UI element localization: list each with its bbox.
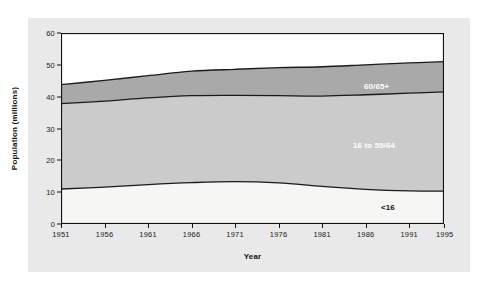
y-tick-mark	[57, 192, 61, 193]
x-tick-label: 1991	[400, 230, 418, 239]
chart-figure-panel: 0102030405060 19511956196119661971197619…	[28, 18, 470, 272]
y-tick-label: 0	[51, 220, 55, 229]
x-tick-mark	[105, 224, 106, 228]
y-tick-label: 10	[46, 188, 55, 197]
x-tick-label: 1951	[52, 230, 70, 239]
series-label-60-65-plus: 60/65+	[364, 82, 389, 91]
x-tick-label: 1966	[183, 230, 201, 239]
y-tick-label: 50	[46, 60, 55, 69]
series-label-16-to-59-64: 16 to 59/64	[353, 141, 395, 150]
x-tick-mark	[61, 224, 62, 228]
x-tick-mark	[279, 224, 280, 228]
y-tick-label: 30	[46, 124, 55, 133]
x-tick-label: 1995	[436, 230, 454, 239]
x-tick-mark	[444, 224, 445, 228]
stacked-area-svg	[61, 33, 444, 224]
x-tick-mark	[322, 224, 323, 228]
x-tick-label: 1961	[139, 230, 157, 239]
y-tick-label: 20	[46, 156, 55, 165]
x-tick-label: 1976	[270, 230, 288, 239]
y-tick-label: 60	[46, 29, 55, 38]
x-tick-mark	[366, 224, 367, 228]
y-tick-mark	[57, 160, 61, 161]
series-label-under-16: <16	[381, 203, 395, 212]
x-tick-label: 1981	[313, 230, 331, 239]
y-tick-mark	[57, 128, 61, 129]
y-tick-mark	[57, 64, 61, 65]
x-tick-mark	[192, 224, 193, 228]
x-axis-title: Year	[61, 252, 444, 261]
x-tick-mark	[409, 224, 410, 228]
y-tick-mark	[57, 96, 61, 97]
y-tick-mark	[57, 33, 61, 34]
x-tick-label: 1971	[226, 230, 244, 239]
x-tick-label: 1986	[357, 230, 375, 239]
x-tick-mark	[148, 224, 149, 228]
plot-area: 0102030405060 19511956196119661971197619…	[61, 33, 444, 224]
x-tick-mark	[235, 224, 236, 228]
y-axis-title: Population (millions)	[8, 33, 20, 224]
x-tick-label: 1956	[96, 230, 114, 239]
y-tick-label: 40	[46, 92, 55, 101]
